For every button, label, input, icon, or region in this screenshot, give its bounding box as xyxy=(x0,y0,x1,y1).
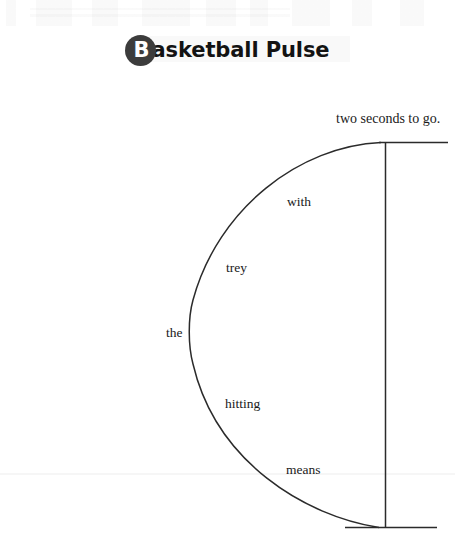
arc-word-the: the xyxy=(166,326,183,340)
arc-word-hitting: hitting xyxy=(225,397,260,411)
title-badge-letter: B xyxy=(133,40,150,61)
arc-word-with: with xyxy=(287,195,311,209)
page-canvas: B asketball Pulse two seconds to go. wit… xyxy=(0,0,455,543)
arc-word-means: means xyxy=(286,463,321,477)
title-text: asketball Pulse xyxy=(151,40,329,61)
basketball-badge-icon: B xyxy=(125,35,156,66)
arc-word-trey: trey xyxy=(226,261,247,275)
caption-two-seconds-to-go: two seconds to go. xyxy=(336,112,440,126)
